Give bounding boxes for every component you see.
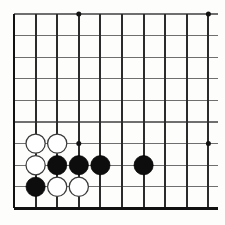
white-stone-c1r6[interactable] bbox=[26, 134, 45, 153]
goban[interactable] bbox=[0, 0, 225, 225]
white-stone-c1r7[interactable] bbox=[26, 156, 45, 175]
star-point-3 bbox=[206, 141, 211, 146]
black-stone-c4r7[interactable] bbox=[91, 156, 110, 175]
white-stone-c2r6[interactable] bbox=[48, 134, 67, 153]
white-stone-c3r8[interactable] bbox=[69, 177, 88, 196]
star-point-0 bbox=[76, 12, 81, 17]
goban-svg[interactable] bbox=[0, 0, 225, 225]
black-stone-c6r7[interactable] bbox=[134, 156, 153, 175]
go-board-diagram bbox=[0, 0, 225, 225]
black-stone-c2r7[interactable] bbox=[48, 156, 67, 175]
star-point-2 bbox=[76, 141, 81, 146]
black-stone-c3r7[interactable] bbox=[69, 156, 88, 175]
star-point-1 bbox=[206, 12, 211, 17]
black-stone-c1r8[interactable] bbox=[26, 177, 45, 196]
white-stone-c2r8[interactable] bbox=[48, 177, 67, 196]
